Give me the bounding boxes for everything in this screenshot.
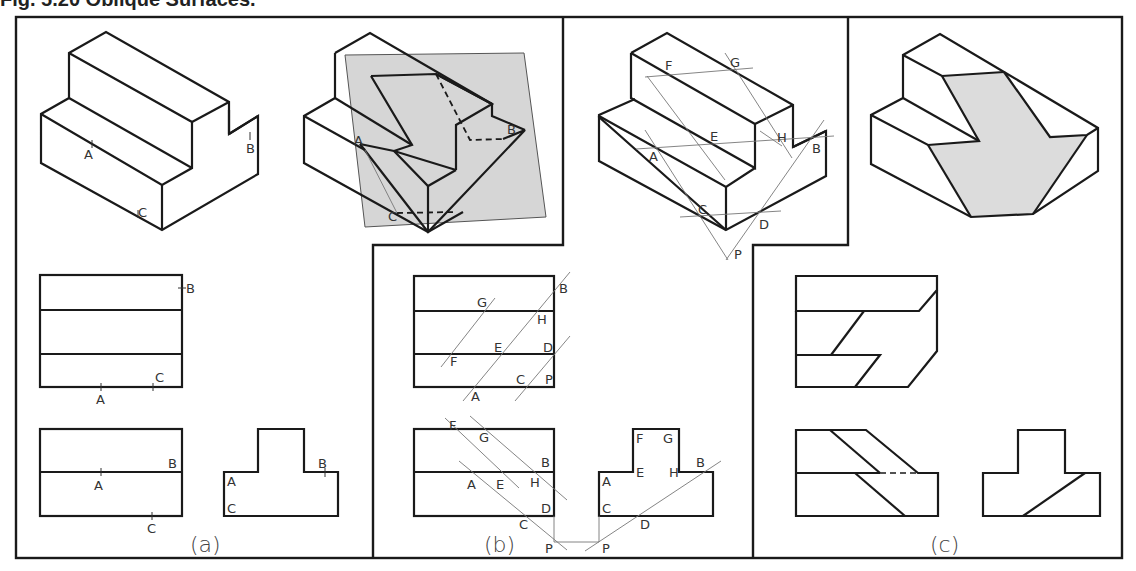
label-A: A bbox=[84, 147, 93, 162]
label-P: P bbox=[602, 541, 610, 556]
label-A: A bbox=[471, 389, 480, 404]
label-B: B bbox=[696, 455, 705, 470]
label-F: F bbox=[665, 58, 672, 73]
label-F: F bbox=[449, 418, 456, 433]
panel-a: A C B B A C B A C bbox=[40, 32, 338, 557]
label-F: F bbox=[636, 431, 643, 446]
c-front-view bbox=[796, 430, 938, 516]
caption-c: (c) bbox=[930, 532, 959, 557]
caption-a: (a) bbox=[190, 532, 221, 557]
label-H: H bbox=[777, 130, 787, 145]
label-B: B bbox=[168, 456, 177, 471]
divider-b-c bbox=[753, 17, 848, 558]
label-B: B bbox=[246, 141, 255, 156]
label-E: E bbox=[710, 129, 718, 144]
label-C: C bbox=[388, 209, 397, 224]
label-C: C bbox=[698, 202, 707, 217]
c-isometric-view bbox=[871, 34, 1098, 217]
label-B: B bbox=[541, 455, 550, 470]
label-P: P bbox=[545, 541, 553, 556]
label-E: E bbox=[494, 340, 502, 355]
panel-c: (c) bbox=[796, 34, 1100, 557]
label-H: H bbox=[669, 465, 679, 480]
label-A: A bbox=[602, 474, 611, 489]
label-A: A bbox=[649, 149, 658, 164]
label-D: D bbox=[543, 340, 553, 355]
label-B: B bbox=[186, 281, 195, 296]
a-top-view: B A C bbox=[40, 275, 195, 407]
c-top-view bbox=[796, 276, 937, 387]
label-A: A bbox=[96, 392, 105, 407]
label-D: D bbox=[759, 217, 769, 232]
label-C: C bbox=[516, 372, 525, 387]
label-C: C bbox=[602, 501, 611, 516]
a-cutting-plane-view: A B C bbox=[304, 33, 546, 232]
label-E: E bbox=[636, 465, 644, 480]
label-A: A bbox=[467, 477, 476, 492]
label-B: B bbox=[812, 141, 821, 156]
b-side-view: F G E H B A C D P bbox=[585, 429, 721, 556]
label-F: F bbox=[450, 354, 457, 369]
label-D: D bbox=[640, 517, 650, 532]
label-A: A bbox=[354, 133, 363, 148]
figure-canvas: A C B B A C B A C bbox=[0, 0, 1136, 571]
label-H: H bbox=[537, 312, 547, 327]
a-isometric-view: A C B bbox=[41, 32, 258, 230]
label-G: G bbox=[663, 431, 673, 446]
label-P: P bbox=[734, 247, 742, 262]
label-B: B bbox=[507, 122, 516, 137]
b-top-view: G H B E D F C P A bbox=[414, 272, 570, 404]
label-B: B bbox=[318, 456, 327, 471]
a-front-view: B A C bbox=[40, 429, 182, 536]
label-B: B bbox=[559, 281, 568, 296]
label-C: C bbox=[519, 517, 528, 532]
caption-b: (b) bbox=[484, 532, 515, 557]
a-side-view: A C B bbox=[224, 429, 338, 516]
label-C: C bbox=[138, 205, 147, 220]
label-D: D bbox=[541, 501, 551, 516]
label-C: C bbox=[155, 370, 164, 385]
c-side-view bbox=[983, 430, 1100, 516]
label-A: A bbox=[94, 478, 103, 493]
label-P: P bbox=[545, 372, 553, 387]
label-A: A bbox=[227, 474, 236, 489]
label-C: C bbox=[147, 521, 156, 536]
label-G: G bbox=[730, 55, 740, 70]
label-G: G bbox=[477, 295, 487, 310]
label-E: E bbox=[496, 477, 504, 492]
label-C: C bbox=[227, 501, 236, 516]
label-G: G bbox=[479, 430, 489, 445]
label-H: H bbox=[530, 475, 540, 490]
b-isometric-view: F G E H B A C D P bbox=[599, 33, 834, 262]
